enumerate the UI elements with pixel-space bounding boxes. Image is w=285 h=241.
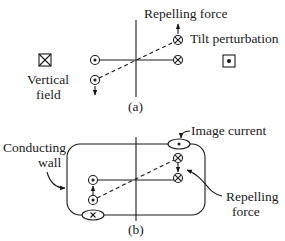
- label-vertical-field-2: field: [36, 87, 61, 102]
- current-in-icon: [174, 154, 183, 163]
- current-out-icon: [91, 56, 100, 65]
- current-in-icon: [174, 36, 183, 45]
- leader-conducting-wall: [47, 172, 65, 188]
- label-repelling-force-a: Repelling force: [144, 6, 228, 21]
- current-out-icon: [89, 176, 98, 185]
- image-current-bottom-icon: [82, 210, 104, 220]
- label-vertical-field-1: Vertical: [27, 72, 69, 87]
- label-repelling-force-b-2: force: [232, 204, 260, 219]
- label-image-current: Image current: [191, 123, 267, 138]
- label-repelling-force-b-1: Repelling: [226, 189, 279, 204]
- caption-a: (a): [128, 99, 143, 114]
- field-out-of-page-icon: [223, 55, 235, 67]
- leader-image-current: [181, 131, 190, 138]
- current-in-icon: [174, 56, 183, 65]
- current-in-icon: [174, 174, 183, 183]
- label-conducting-wall-2: wall: [38, 155, 61, 170]
- label-tilt-perturbation: Tilt perturbation: [190, 31, 279, 46]
- image-current-top-icon: [168, 139, 190, 149]
- label-conducting-wall-1: Conducting: [3, 140, 66, 155]
- panel-b: [47, 131, 222, 221]
- current-out-icon: [91, 76, 100, 85]
- caption-b: (b): [128, 222, 144, 237]
- field-into-page-icon: [39, 54, 51, 66]
- figure: Repelling force Tilt perturbation Vertic…: [0, 0, 285, 241]
- current-out-icon: [89, 196, 98, 205]
